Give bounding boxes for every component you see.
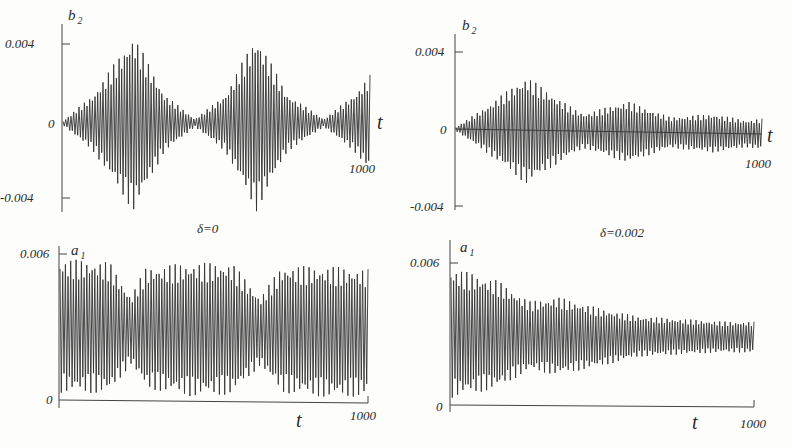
panel-bottom-right-ytick-zero: 0 [436, 400, 443, 413]
panel-bottom-left-curve [60, 260, 368, 397]
panel-top-left-ytick-top: 0.004 [5, 37, 34, 50]
panel-top-left-ylabel: b2 [68, 8, 83, 23]
panel-bottom-right-xtick-end: 1000 [740, 417, 766, 430]
panel-top-right-xlabel: t [767, 125, 773, 145]
panel-top-right-ylabel: b2 [462, 18, 477, 33]
panel-top-right-caption: δ=0.002 [600, 226, 644, 239]
panel-bottom-right-ytick-top: 0.006 [410, 256, 439, 269]
panel-top-left-xlabel: t [377, 112, 383, 132]
panel-top-left-xtick-end: 1000 [349, 162, 375, 175]
panel-bottom-left-xlabel: t [296, 410, 302, 430]
panel-bottom-left-ytick-top: 0.006 [20, 247, 49, 260]
panel-bottom-left-xtick-end: 1000 [350, 409, 376, 422]
panel-top-left-ytick-bottom: -0.004 [0, 191, 34, 204]
panel-top-right-ytick-bottom: -0.004 [410, 200, 444, 213]
panel-top-left-ytick-zero: 0 [48, 117, 55, 130]
panel-top-right-xtick-end: 1000 [745, 157, 771, 170]
panel-bottom-left-ytick-zero: 0 [46, 393, 53, 406]
panel-top-left-caption: δ=0 [197, 222, 218, 235]
panel-bottom-right-ylabel: a1 [460, 240, 475, 255]
panel-bottom-right-xlabel: t [692, 412, 698, 432]
panel-bottom-left-ylabel: a1 [71, 243, 86, 258]
panel-top-right-ytick-top: 0.004 [415, 45, 444, 58]
panel-bottom-right-curve [451, 272, 754, 398]
panel-top-right-ytick-zero: 0 [440, 123, 447, 136]
figure: b2 0.004 0 -0.004 t 1000 δ=0 b2 0.004 0 … [0, 0, 792, 448]
plot-canvas [0, 0, 792, 448]
panel-top-left-curve [63, 44, 370, 211]
